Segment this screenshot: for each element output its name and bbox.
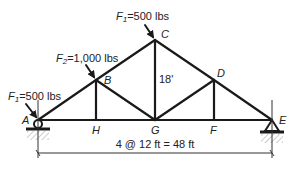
truss-diagram: F1=500 lbs F2=1,000 lbs F1=500 lbs A B C… <box>0 0 292 170</box>
load-label-F1-C: F1=500 lbs <box>116 10 170 24</box>
node-label-H: H <box>92 124 100 136</box>
load-arrow-F2-B <box>86 65 94 77</box>
load-arrow-F1-C <box>145 25 153 37</box>
member-BG <box>96 80 155 120</box>
node-label-A: A <box>21 114 29 126</box>
height-label: 18' <box>159 73 173 85</box>
load-arrows <box>26 25 153 117</box>
member-DG <box>155 80 214 120</box>
load-label-F1-A: F1=500 lbs <box>8 90 62 104</box>
member-DE <box>214 80 272 120</box>
node-label-F: F <box>210 124 218 136</box>
span-label: 4 @ 12 ft = 48 ft <box>116 138 195 150</box>
node-label-D: D <box>217 67 225 79</box>
node-label-B: B <box>104 74 111 86</box>
node-label-E: E <box>279 114 287 126</box>
node-label-C: C <box>161 28 169 40</box>
load-label-F2-B: F2=1,000 lbs <box>56 52 119 66</box>
node-label-G: G <box>151 124 160 136</box>
